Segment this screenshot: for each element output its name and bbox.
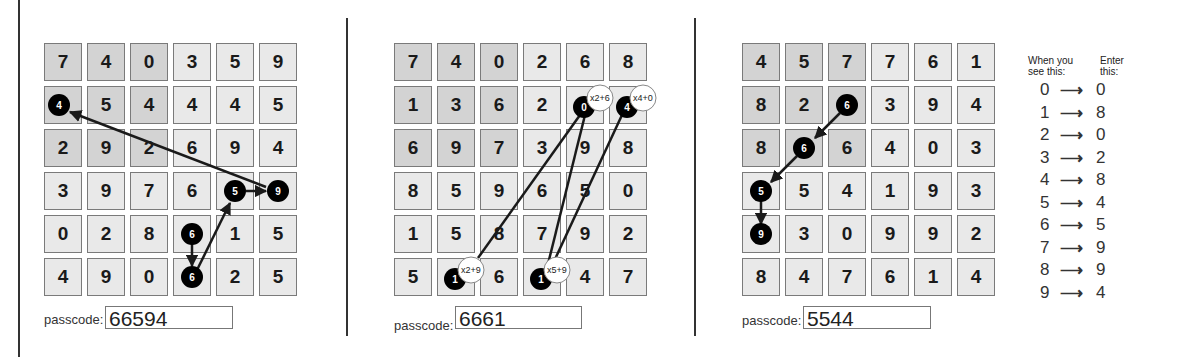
legend-header-see-line1: When you <box>1028 55 1073 66</box>
legend-row: 1⟶8 <box>1040 103 1170 123</box>
grid-cell: 5 <box>394 258 432 296</box>
legend-row: 7⟶9 <box>1040 238 1170 258</box>
legend-row: 4⟶8 <box>1040 170 1170 190</box>
grid-cell: 7 <box>44 43 82 81</box>
grid-cell: 4 <box>871 129 909 167</box>
passcode-input[interactable]: 66594 <box>105 306 233 329</box>
grid-cell: 6 <box>914 43 952 81</box>
grid-cell: 9 <box>914 215 952 253</box>
grid-cell: 4 <box>437 43 475 81</box>
grid-cell: 9 <box>914 172 952 210</box>
grid-cell: 4 <box>785 258 823 296</box>
legend-see-digit: 1 <box>1040 103 1049 123</box>
legend-header-enter: Enter this: <box>1100 55 1124 77</box>
grid-cell: 4 <box>44 86 82 124</box>
grid-cell: 7 <box>130 172 168 210</box>
grid-cell: 1 <box>914 258 952 296</box>
arrow-right-icon: ⟶ <box>1060 283 1083 302</box>
grid-cell: 7 <box>828 43 866 81</box>
grid-cell: 2 <box>523 86 561 124</box>
legend-enter-digit: 2 <box>1096 148 1105 168</box>
grid-cell: 2 <box>130 129 168 167</box>
arrow-right-icon: ⟶ <box>1060 103 1083 122</box>
legend-enter-digit: 5 <box>1096 215 1105 235</box>
grid-cell: 8 <box>742 86 780 124</box>
legend-enter-digit: 4 <box>1096 283 1105 303</box>
legend-row: 6⟶5 <box>1040 215 1170 235</box>
grid-cell: 1 <box>957 43 995 81</box>
grid-cell: 6 <box>480 258 518 296</box>
grid-cell: 6 <box>173 258 211 296</box>
grid-cell: 9 <box>871 215 909 253</box>
arrow-right-icon: ⟶ <box>1060 148 1083 167</box>
grid-cell: 8 <box>394 172 432 210</box>
grid-cell: 2 <box>785 86 823 124</box>
grid-cell: 6 <box>828 86 866 124</box>
grid-cell: 6 <box>523 172 561 210</box>
grid-cell: 0 <box>480 43 518 81</box>
grid-cell: 7 <box>828 258 866 296</box>
legend-see-digit: 6 <box>1040 215 1049 235</box>
grid-cell: 8 <box>609 43 647 81</box>
grid-cell: 6 <box>173 172 211 210</box>
legend-row: 0⟶0 <box>1040 80 1170 100</box>
grid-cell: 4 <box>173 86 211 124</box>
grid-cell: 4 <box>957 86 995 124</box>
legend-header-see-line2: see this: <box>1028 66 1073 77</box>
legend-enter-digit: 0 <box>1096 80 1105 100</box>
grid-cell: 3 <box>785 215 823 253</box>
grid-cell: 1 <box>523 258 561 296</box>
grid-cell: 6 <box>394 129 432 167</box>
passcode-label: passcode: <box>44 312 103 327</box>
grid-cell: 5 <box>437 172 475 210</box>
grid-cell: 2 <box>609 215 647 253</box>
legend-see-digit: 3 <box>1040 148 1049 168</box>
grid-cell: 2 <box>44 129 82 167</box>
grid-cell: 9 <box>87 172 125 210</box>
passcode-label: passcode: <box>742 313 801 328</box>
legend-header-enter-line1: Enter <box>1100 55 1124 66</box>
legend-header-see: When you see this: <box>1028 55 1073 77</box>
grid-cell: 4 <box>742 43 780 81</box>
grid-cell: 1 <box>216 215 254 253</box>
panel-1: 740359454445292694397659028615490625 pas… <box>0 0 346 357</box>
grid-cell: 9 <box>216 129 254 167</box>
legend-enter-digit: 9 <box>1096 238 1105 258</box>
grid-cell: 2 <box>216 258 254 296</box>
grid-cell: 4 <box>828 172 866 210</box>
grid-cell: 9 <box>566 129 604 167</box>
grid-cell: 9 <box>914 86 952 124</box>
legend-enter-digit: 4 <box>1096 193 1105 213</box>
legend-enter-digit: 0 <box>1096 125 1105 145</box>
grid-cell: 0 <box>44 215 82 253</box>
legend-see-digit: 5 <box>1040 193 1049 213</box>
grid-cell: 3 <box>523 129 561 167</box>
grid-cell: 0 <box>914 129 952 167</box>
legend-header-enter-line2: this: <box>1100 66 1124 77</box>
grid-cell: 0 <box>130 43 168 81</box>
legend-see-digit: 4 <box>1040 170 1049 190</box>
grid-cell: 2 <box>523 43 561 81</box>
arrow-right-icon: ⟶ <box>1060 260 1083 279</box>
grid-cell: 6 <box>480 86 518 124</box>
grid-cell: 4 <box>87 43 125 81</box>
legend-enter-digit: 9 <box>1096 260 1105 280</box>
passcode-input[interactable]: 6661 <box>455 306 582 329</box>
grid-cell: 7 <box>871 43 909 81</box>
legend-row: 3⟶2 <box>1040 148 1170 168</box>
grid-cell: 4 <box>566 258 604 296</box>
grid-cell: 3 <box>44 172 82 210</box>
grid-cell: 3 <box>871 86 909 124</box>
grid-cell: 4 <box>957 258 995 296</box>
grid-cell: 6 <box>173 215 211 253</box>
grid-cell: 5 <box>216 172 254 210</box>
grid-cell: 9 <box>87 129 125 167</box>
passcode-label: passcode: <box>394 318 453 333</box>
grid-cell: 5 <box>785 172 823 210</box>
passcode-input[interactable]: 5544 <box>803 306 931 329</box>
grid-cell: 9 <box>259 43 297 81</box>
arrow-right-icon: ⟶ <box>1060 215 1083 234</box>
legend-see-digit: 2 <box>1040 125 1049 145</box>
grid-cell: 0 <box>130 258 168 296</box>
legend-enter-digit: 8 <box>1096 103 1105 123</box>
